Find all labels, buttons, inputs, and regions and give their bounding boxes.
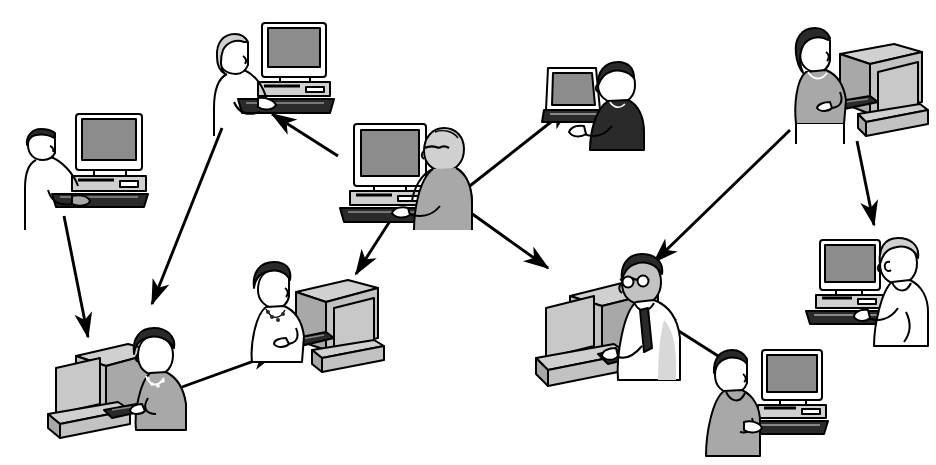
necklace-bead (276, 318, 280, 322)
figure-woman-bottom-center (240, 252, 386, 378)
necklace-bead (270, 315, 274, 319)
person-head (424, 128, 464, 171)
crt-monitor-screen (361, 130, 419, 176)
person-hand (854, 310, 870, 321)
person-head (258, 270, 289, 308)
person-torso (25, 160, 36, 230)
person-hand (72, 195, 90, 205)
crt-monitor-screen (767, 355, 817, 392)
figure-woman-far-top-right (782, 18, 928, 144)
figure-man-left-standing (22, 108, 157, 230)
figure-man-center-hub-bald (336, 118, 476, 230)
figure-woman-top-center (206, 18, 341, 136)
figure-man-bottom-right-suit (700, 344, 830, 456)
crt-monitor-screen (268, 28, 320, 67)
laptop-screen (552, 73, 595, 105)
necklace-bead (146, 377, 150, 381)
crt-monitor-screen (82, 119, 136, 160)
network-of-computer-users-illustration: Nine people working at desktop computers… (0, 0, 936, 465)
necklace-bead (150, 382, 154, 386)
keyboard (238, 99, 334, 113)
necklace-bead (281, 312, 285, 316)
computer-base-drive (306, 87, 324, 92)
computer-base-drive (120, 181, 138, 187)
arrow-left-man-to-bottom-left-woman (64, 216, 88, 337)
figure-man-bottom-hub-tie (522, 248, 692, 398)
glasses-lens-left (623, 277, 634, 288)
computer-base-drive (858, 299, 876, 304)
figure-woman-bottom-left (42, 320, 190, 448)
person-lower-body (796, 124, 844, 144)
necklace-bead (266, 310, 270, 314)
necklace-bead (161, 379, 165, 383)
figure-person-laptop-top-right (540, 58, 652, 150)
arrow-top-center-woman-to-bottom-left-woman (152, 128, 222, 304)
person-torso (214, 74, 227, 136)
arrow-far-top-right-woman-to-bottom-hub (654, 130, 790, 262)
crt-monitor-screen (825, 245, 875, 282)
computer-base-drive (802, 409, 820, 414)
person-hand (392, 207, 410, 217)
person-hand (569, 126, 586, 137)
necklace-bead (156, 384, 160, 388)
person-body (252, 306, 304, 362)
person-hand (274, 338, 289, 347)
figure-person-right-gray-hair (802, 234, 932, 346)
glasses-lens-right (638, 276, 649, 287)
arrow-far-top-right-woman-to-right-person (857, 141, 874, 225)
